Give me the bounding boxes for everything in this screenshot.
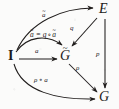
arrow-label-rho-after-a-text: ρ ∘ a bbox=[34, 76, 48, 84]
commutative-diagram-figure: I G ~ E G a ~ a ~ =q∘ a ~ a q p bbox=[0, 0, 119, 109]
vertex-E-label: E bbox=[99, 1, 108, 16]
vertex-G-label: G bbox=[99, 89, 109, 104]
tilde-accent-icon: ~ bbox=[53, 27, 56, 33]
arrow-label-rho: ρ bbox=[76, 65, 79, 72]
vertex-E: E bbox=[99, 2, 108, 16]
equation-rhs-q: q bbox=[43, 30, 47, 39]
equation-a-tilde-equals-q-after-a-tilde: a ~ =q∘ a ~ bbox=[30, 31, 56, 39]
arrow-label-rho-after-a: ρ ∘ a bbox=[34, 77, 48, 84]
arrow-label-q-text: q bbox=[70, 24, 74, 32]
vertex-I: I bbox=[8, 49, 13, 63]
tilde-accent-icon: ~ bbox=[42, 8, 45, 14]
arrow-label-q: q bbox=[70, 25, 74, 32]
arrow-label-p: p bbox=[96, 51, 100, 58]
arrow-label-a: a bbox=[35, 48, 39, 55]
equation-relation: = bbox=[34, 30, 43, 39]
arrow-i-to-g bbox=[14, 64, 95, 99]
vertex-I-label: I bbox=[8, 48, 13, 63]
arrow-label-a-text: a bbox=[35, 47, 39, 55]
tilde-accent-icon: ~ bbox=[63, 44, 68, 53]
tilde-accent-icon: ~ bbox=[30, 27, 33, 33]
arrow-label-a-tilde-top: a ~ bbox=[42, 12, 46, 19]
arrow-label-rho-text: ρ bbox=[76, 64, 79, 72]
vertex-G: G bbox=[99, 90, 109, 104]
arrow-e-to-gtilde bbox=[72, 18, 97, 46]
vertex-G-tilde: G ~ bbox=[60, 49, 70, 63]
arrow-label-p-text: p bbox=[96, 50, 100, 58]
arrow-gtilde-to-g bbox=[69, 64, 97, 92]
